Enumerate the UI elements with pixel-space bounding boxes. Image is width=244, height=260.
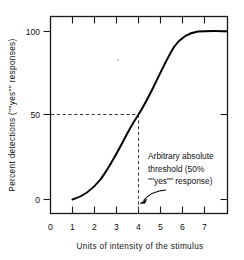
xtick-label-6: 6 xyxy=(180,222,185,232)
xtick-label-7: 7 xyxy=(202,222,207,232)
threshold-annotation-line2: threshold (50% xyxy=(148,164,205,174)
xtick-label-4: 4 xyxy=(136,222,141,232)
ytick-label-0: 0 xyxy=(35,195,40,205)
figure-container: 0 1 2 3 4 5 6 7 100 50 0 Arbitrary absol… xyxy=(0,0,244,260)
y-axis-ticks xyxy=(44,32,51,200)
threshold-annotation-line3: ""yes"" response) xyxy=(148,176,213,186)
xtick-label-1: 1 xyxy=(70,222,75,232)
xtick-label-3: 3 xyxy=(114,222,119,232)
y-axis-title: Percent detections (""yes"" responses) xyxy=(8,38,17,191)
ytick-label-50: 50 xyxy=(30,110,40,120)
xtick-label-5: 5 xyxy=(158,222,163,232)
ytick-label-100: 100 xyxy=(26,27,41,37)
xtick-label-0: 0 xyxy=(48,222,53,232)
psychometric-curve xyxy=(73,31,228,200)
scan-speck xyxy=(117,59,119,61)
threshold-annotation-line1: Arbitrary absolute xyxy=(148,151,214,161)
psychometric-function-chart: 0 1 2 3 4 5 6 7 100 50 0 Arbitrary absol… xyxy=(0,0,244,260)
x-axis-title: Units of intensity of the stimulus xyxy=(76,242,203,251)
top-axis-ticks xyxy=(73,17,205,24)
right-axis-ticks xyxy=(221,32,228,200)
xtick-label-2: 2 xyxy=(92,222,97,232)
